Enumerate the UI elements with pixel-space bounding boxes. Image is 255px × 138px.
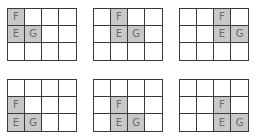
- grid-cell-f: F: [8, 9, 25, 26]
- grid-cell-empty: [145, 80, 162, 97]
- grid-cell-f: F: [214, 97, 231, 114]
- grid-cell-empty: [94, 43, 111, 60]
- grid-panel-4: FEG: [7, 79, 77, 132]
- grid-cell-empty: [111, 80, 128, 97]
- grid-cell-empty: [25, 80, 42, 97]
- grid-panel-6: FEG: [179, 79, 249, 132]
- grid-cell-empty: [128, 80, 145, 97]
- grid-cell-empty: [145, 114, 162, 131]
- grid-cell-empty: [197, 9, 214, 26]
- grid-cell-e: E: [111, 26, 128, 43]
- grid-panel-2: FEG: [93, 8, 163, 61]
- grid-cell-empty: [180, 9, 197, 26]
- grid-cell-empty: [94, 114, 111, 131]
- grid-cell-e: E: [214, 26, 231, 43]
- grid-cell-empty: [94, 26, 111, 43]
- grid-cell-empty: [145, 97, 162, 114]
- grid-cell-e: E: [214, 114, 231, 131]
- grid-cell-g: G: [128, 26, 145, 43]
- grid-cell-empty: [42, 9, 59, 26]
- grid-cell-empty: [197, 97, 214, 114]
- grid-cell-empty: [8, 43, 25, 60]
- grid-cell-g: G: [128, 114, 145, 131]
- grid-cell-empty: [231, 9, 248, 26]
- grid-cell-empty: [25, 97, 42, 114]
- grid-cell-empty: [197, 114, 214, 131]
- grid-cell-empty: [59, 114, 76, 131]
- grid-cell-f: F: [111, 97, 128, 114]
- grid-panel-3: FEG: [179, 8, 249, 61]
- grid-cell-empty: [180, 114, 197, 131]
- grid-cell-empty: [25, 9, 42, 26]
- grid-cell-empty: [145, 9, 162, 26]
- grid-panel-1: FEG: [7, 8, 77, 61]
- grid-cell-f: F: [111, 9, 128, 26]
- grid-cell-empty: [8, 80, 25, 97]
- grid-cell-empty: [59, 97, 76, 114]
- grid-cell-empty: [214, 80, 231, 97]
- grid-panel-5: FEG: [93, 79, 163, 132]
- grid-cell-empty: [42, 80, 59, 97]
- grid-cell-f: F: [214, 9, 231, 26]
- grid-cell-g: G: [25, 114, 42, 131]
- grid-cell-g: G: [25, 26, 42, 43]
- grid-cell-empty: [42, 97, 59, 114]
- grid-cell-empty: [94, 80, 111, 97]
- grid-cell-empty: [231, 97, 248, 114]
- grid-cell-empty: [145, 43, 162, 60]
- grid-cell-empty: [25, 43, 42, 60]
- grid-cell-empty: [59, 9, 76, 26]
- grid-cell-empty: [197, 80, 214, 97]
- grid-cell-e: E: [111, 114, 128, 131]
- grid-cell-empty: [59, 26, 76, 43]
- grid-cell-empty: [231, 43, 248, 60]
- grid-cell-g: G: [231, 26, 248, 43]
- grid-cell-empty: [180, 97, 197, 114]
- grid-cell-empty: [180, 80, 197, 97]
- grid-cell-empty: [59, 80, 76, 97]
- grid-cell-empty: [94, 9, 111, 26]
- grid-cell-empty: [111, 43, 128, 60]
- grid-cell-f: F: [8, 97, 25, 114]
- grid-cell-empty: [42, 43, 59, 60]
- grid-cell-empty: [128, 43, 145, 60]
- grid-cell-e: E: [8, 26, 25, 43]
- grid-cell-empty: [145, 26, 162, 43]
- grid-cell-empty: [42, 26, 59, 43]
- grid-cell-empty: [197, 26, 214, 43]
- grid-cell-empty: [231, 80, 248, 97]
- grid-cell-empty: [128, 9, 145, 26]
- grid-cell-empty: [180, 43, 197, 60]
- grid-cell-empty: [214, 43, 231, 60]
- grid-cell-empty: [42, 114, 59, 131]
- grid-cell-empty: [59, 43, 76, 60]
- grid-cell-empty: [180, 26, 197, 43]
- grid-cell-empty: [128, 97, 145, 114]
- grid-cell-g: G: [231, 114, 248, 131]
- grid-cell-e: E: [8, 114, 25, 131]
- grid-cell-empty: [197, 43, 214, 60]
- grid-cell-empty: [94, 97, 111, 114]
